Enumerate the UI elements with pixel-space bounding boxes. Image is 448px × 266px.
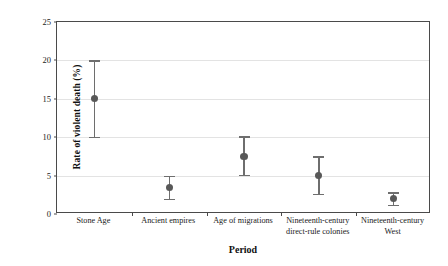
error-bar-cap-lower — [388, 205, 399, 206]
x-tick-label-line: Stone Age — [57, 216, 130, 227]
y-tick-label: 5 — [47, 171, 51, 181]
data-point-marker[interactable] — [315, 172, 322, 179]
gridline — [57, 99, 429, 100]
plot-area: 0510152025 Rate of violent death (%) — [56, 21, 430, 213]
x-tick-label-line: Nineteenth-century — [281, 216, 354, 227]
data-point-marker[interactable] — [390, 195, 397, 202]
error-bar-cap-upper — [164, 176, 175, 177]
error-bar-cap-lower — [89, 137, 100, 138]
gridline — [57, 60, 429, 61]
x-tick-label-line: West — [356, 227, 429, 238]
y-tick-mark — [54, 60, 57, 61]
y-tick-label: 20 — [43, 55, 52, 65]
error-bar-cap-lower — [164, 199, 175, 200]
x-tick-label-line: Ancient empires — [132, 216, 205, 227]
data-point-marker[interactable] — [240, 153, 247, 160]
y-tick-label: 0 — [47, 209, 51, 219]
x-tick-label-line: Age of migrations — [207, 216, 280, 227]
x-axis-title: Period — [56, 244, 430, 255]
error-bar-cap-upper — [89, 60, 100, 61]
y-axis-title: Rate of violent death (%) — [72, 65, 82, 170]
data-point-marker[interactable] — [166, 184, 173, 191]
x-tick-label: Nineteenth-centuryWest — [355, 216, 430, 244]
error-bar-cap-lower — [239, 175, 250, 176]
x-tick-label: Age of migrations — [206, 216, 281, 244]
x-tick-label-line: Nineteenth-century — [356, 216, 429, 227]
x-axis-tick-labels: Stone AgeAncient empiresAge of migration… — [56, 216, 430, 244]
y-tick-mark — [54, 214, 57, 215]
x-tick-label: Nineteenth-centurydirect-rule colonies — [280, 216, 355, 244]
y-tick-mark — [54, 137, 57, 138]
error-bar-cap-upper — [239, 136, 250, 137]
data-point-marker[interactable] — [91, 95, 98, 102]
error-bar-cap-upper — [313, 156, 324, 157]
x-tick-label: Stone Age — [56, 216, 131, 244]
x-tick-label-line: direct-rule colonies — [281, 227, 354, 238]
x-tick-label: Ancient empires — [131, 216, 206, 244]
y-tick-mark — [54, 175, 57, 176]
y-tick-mark — [54, 22, 57, 23]
y-tick-mark — [54, 98, 57, 99]
error-bar-cap-lower — [313, 194, 324, 195]
y-tick-label: 25 — [43, 17, 52, 27]
y-tick-label: 10 — [43, 132, 52, 142]
violent-death-rate-chart: 0510152025 Rate of violent death (%) Sto… — [0, 0, 448, 266]
y-tick-label: 15 — [43, 94, 52, 104]
error-bar-cap-upper — [388, 192, 399, 193]
